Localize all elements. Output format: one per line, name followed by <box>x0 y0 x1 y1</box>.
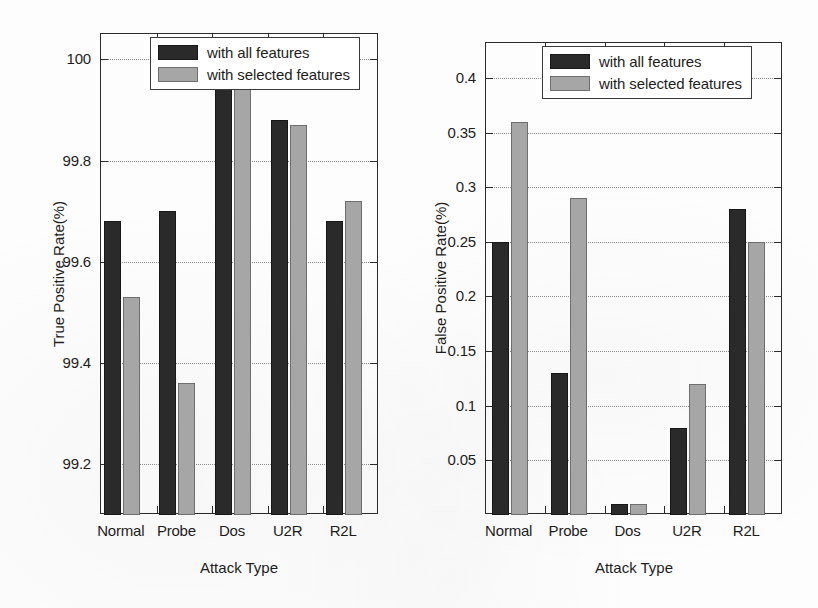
y-tick-mark <box>774 133 781 134</box>
panel-true-positive-rate: True Positive Rate(%) Attack Type with a… <box>0 0 410 608</box>
y-tick-mark <box>370 363 377 364</box>
x-tick-label: Probe <box>549 522 588 539</box>
gridline-y <box>486 187 781 188</box>
legend-swatch-all-features <box>158 45 198 60</box>
x-axis-title-attack-type-left: Attack Type <box>200 559 278 576</box>
y-tick-label: 0.2 <box>456 287 476 304</box>
y-tick-mark <box>774 242 781 243</box>
legend-label-all-features: with all features <box>207 44 310 61</box>
legend-label-selected-features: with selected features <box>599 75 742 92</box>
y-tick-label: 99.8 <box>63 151 91 168</box>
plot-area-true-positive-rate <box>100 33 378 514</box>
bar <box>748 242 765 515</box>
bar <box>271 120 288 515</box>
y-tick-label: 99.4 <box>63 354 91 371</box>
x-tick-label: R2L <box>733 522 760 539</box>
x-tick-mark <box>323 506 324 513</box>
legend-label-selected-features: with selected features <box>207 66 350 83</box>
y-tick-label: 99.6 <box>63 252 91 269</box>
y-tick-label: 0.15 <box>448 342 476 359</box>
y-tick-mark <box>101 161 108 162</box>
y-tick-mark <box>486 187 493 188</box>
y-tick-mark <box>774 351 781 352</box>
x-tick-mark <box>605 506 606 513</box>
y-tick-mark <box>774 187 781 188</box>
y-tick-mark <box>486 133 493 134</box>
y-tick-mark <box>370 262 377 263</box>
y-tick-label: 0.1 <box>456 396 476 413</box>
y-tick-label: 0.05 <box>448 451 476 468</box>
legend-entry-selected-features: with selected features <box>158 65 350 84</box>
legend-entry-all-features: with all features <box>158 43 350 62</box>
x-tick-label: Dos <box>614 522 640 539</box>
x-tick-label: U2R <box>672 522 701 539</box>
x-tick-label: U2R <box>273 522 302 539</box>
bar <box>670 428 687 515</box>
y-tick-mark <box>370 59 377 60</box>
y-tick-mark <box>774 460 781 461</box>
x-tick-mark <box>157 506 158 513</box>
bar <box>104 221 121 515</box>
y-tick-mark <box>486 78 493 79</box>
bar <box>511 122 528 515</box>
x-tick-label: Dos <box>219 522 245 539</box>
legend-swatch-selected-features <box>550 76 590 91</box>
legend-entry-selected-features: with selected features <box>550 74 742 93</box>
y-tick-mark <box>774 406 781 407</box>
bar <box>326 221 343 515</box>
x-tick-label: R2L <box>330 522 357 539</box>
legend-entry-all-features: with all features <box>550 52 742 71</box>
y-tick-label: 0.3 <box>456 178 476 195</box>
gridline-y <box>486 133 781 134</box>
legend-true-positive-rate: with all features with selected features <box>150 37 360 90</box>
x-tick-label: Normal <box>485 522 532 539</box>
plot-area-false-positive-rate <box>485 42 782 514</box>
bar <box>159 211 176 515</box>
legend-swatch-selected-features <box>158 67 198 82</box>
x-tick-mark <box>268 506 269 513</box>
y-tick-label: 99.2 <box>63 455 91 472</box>
y-tick-mark <box>370 161 377 162</box>
bar <box>345 201 362 515</box>
panel-false-positive-rate: False Positive Rate(%) Attack Type with … <box>410 0 818 608</box>
bar <box>611 504 628 515</box>
x-tick-mark <box>212 506 213 513</box>
y-tick-mark <box>370 464 377 465</box>
x-tick-mark <box>545 506 546 513</box>
x-tick-mark <box>724 506 725 513</box>
legend-label-all-features: with all features <box>599 53 702 70</box>
x-tick-label: Probe <box>157 522 196 539</box>
x-axis-title-attack-type-right: Attack Type <box>595 559 673 576</box>
y-tick-mark <box>774 296 781 297</box>
bar <box>630 504 647 515</box>
bar <box>215 59 232 515</box>
legend-false-positive-rate: with all features with selected features <box>542 46 752 99</box>
y-tick-mark <box>101 59 108 60</box>
bar <box>551 373 568 515</box>
y-tick-label: 0.4 <box>456 68 476 85</box>
bar <box>234 59 251 515</box>
legend-swatch-all-features <box>550 54 590 69</box>
y-axis-title-true-positive-rate: True Positive Rate(%) <box>50 201 67 347</box>
bar <box>689 384 706 515</box>
y-axis-title-false-positive-rate: False Positive Rate(%) <box>432 202 449 355</box>
x-tick-label: Normal <box>97 522 144 539</box>
bar <box>290 125 307 515</box>
y-tick-mark <box>774 78 781 79</box>
bar <box>492 242 509 515</box>
bar <box>570 198 587 515</box>
bar <box>729 209 746 515</box>
bar <box>178 383 195 515</box>
y-tick-label: 0.25 <box>448 232 476 249</box>
y-tick-label: 100 <box>67 50 91 67</box>
x-tick-mark <box>664 506 665 513</box>
bar <box>123 297 140 515</box>
y-tick-label: 0.35 <box>448 123 476 140</box>
